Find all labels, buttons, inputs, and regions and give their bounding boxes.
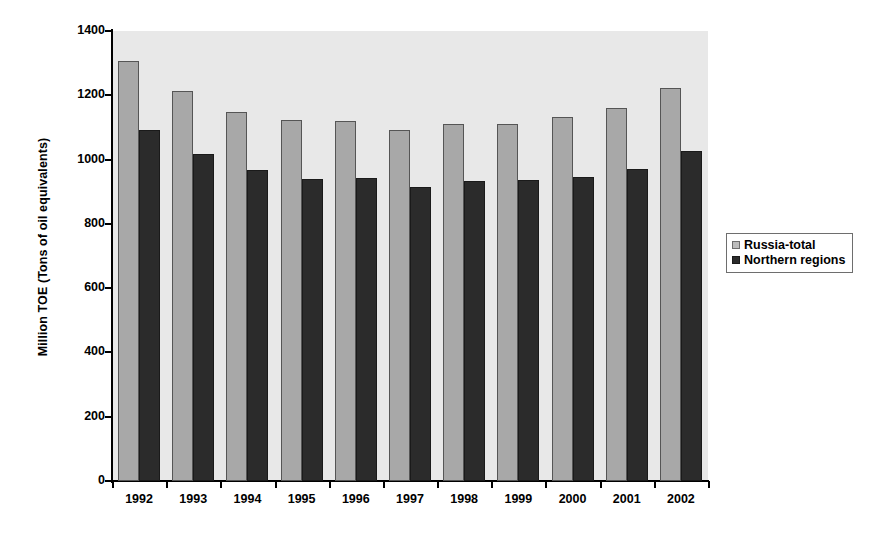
bar-2001-russia-total [606, 108, 627, 481]
y-tick-mark [105, 223, 112, 225]
x-tick-mark [112, 481, 114, 488]
legend-label-russia-total: Russia-total [744, 238, 816, 253]
bar-1995-northern-regions [302, 179, 323, 481]
bar-1995-russia-total [281, 120, 302, 481]
x-tick-mark [437, 481, 439, 488]
y-tick-label: 800 [35, 217, 105, 230]
bar-1996-northern-regions [356, 178, 377, 481]
y-tick-mark [105, 94, 112, 96]
legend-swatch-icon-northern-regions [732, 256, 740, 264]
bar-2001-northern-regions [627, 169, 648, 481]
x-tick-label: 1992 [109, 493, 169, 506]
x-tick-mark [166, 481, 168, 488]
x-tick-label: 2001 [597, 493, 657, 506]
x-tick-mark [491, 481, 493, 488]
y-tick-label: 600 [35, 281, 105, 294]
bar-2000-northern-regions [573, 177, 594, 481]
x-tick-label: 1998 [434, 493, 494, 506]
y-tick-mark [105, 480, 112, 482]
y-tick-mark [105, 30, 112, 32]
bar-1992-russia-total [118, 61, 139, 481]
y-tick-label: 200 [35, 410, 105, 423]
x-tick-mark [329, 481, 331, 488]
x-tick-mark [220, 481, 222, 488]
legend-label-northern-regions: Northern regions [744, 253, 845, 268]
x-tick-mark [383, 481, 385, 488]
bar-chart: Million TOE (Tons of oil equivalents) 02… [0, 0, 890, 537]
y-tick-mark [105, 416, 112, 418]
x-tick-label: 2002 [651, 493, 711, 506]
y-tick-label: 1000 [35, 153, 105, 166]
y-tick-label: 400 [35, 345, 105, 358]
y-tick-label: 1200 [35, 88, 105, 101]
bar-1993-russia-total [172, 91, 193, 481]
chart-legend: Russia-total Northern regions [726, 233, 853, 273]
bar-1993-northern-regions [193, 154, 214, 481]
bar-1998-russia-total [443, 124, 464, 481]
legend-item-northern-regions: Northern regions [732, 253, 845, 268]
legend-item-russia-total: Russia-total [732, 238, 845, 253]
x-tick-label: 1993 [163, 493, 223, 506]
y-tick-mark [105, 159, 112, 161]
x-tick-label: 1995 [272, 493, 332, 506]
bar-1996-russia-total [335, 121, 356, 481]
bar-1997-russia-total [389, 130, 410, 481]
bar-2000-russia-total [552, 117, 573, 481]
bar-2002-russia-total [660, 88, 681, 481]
x-tick-mark [275, 481, 277, 488]
legend-swatch-icon-russia-total [732, 241, 740, 249]
x-tick-label: 1994 [217, 493, 277, 506]
x-tick-label: 1996 [326, 493, 386, 506]
x-tick-mark [654, 481, 656, 488]
bar-1994-russia-total [226, 112, 247, 481]
y-tick-mark [105, 287, 112, 289]
bar-1997-northern-regions [410, 187, 431, 481]
x-tick-mark [600, 481, 602, 488]
x-tick-mark [708, 481, 710, 488]
bar-1998-northern-regions [464, 181, 485, 481]
y-tick-label: 0 [35, 474, 105, 487]
bar-1994-northern-regions [247, 170, 268, 481]
y-tick-mark [105, 351, 112, 353]
y-tick-label: 1400 [35, 24, 105, 37]
x-tick-label: 2000 [543, 493, 603, 506]
bar-2002-northern-regions [681, 151, 702, 481]
bar-1992-northern-regions [139, 130, 160, 481]
bar-1999-russia-total [497, 124, 518, 481]
x-tick-label: 1999 [488, 493, 548, 506]
x-tick-label: 1997 [380, 493, 440, 506]
bar-1999-northern-regions [518, 180, 539, 481]
x-tick-mark [545, 481, 547, 488]
